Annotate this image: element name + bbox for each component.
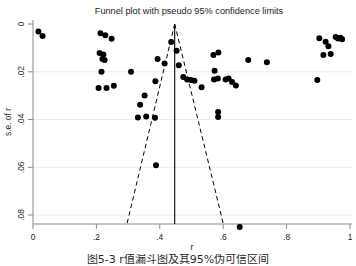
data-point: [152, 78, 158, 84]
data-point: [174, 48, 180, 54]
data-point: [168, 39, 174, 45]
funnel-plot-canvas: Funnel plot with pseudo 95% confidence l…: [0, 0, 356, 266]
x-tick-label: .4: [156, 232, 163, 242]
data-point: [215, 50, 221, 56]
data-point: [215, 109, 221, 115]
data-point: [153, 162, 159, 168]
data-point: [237, 224, 243, 230]
x-tick-label: .6: [220, 232, 227, 242]
data-point: [102, 57, 108, 63]
chart-title: Funnel plot with pseudo 95% confidence l…: [95, 6, 284, 16]
data-point: [325, 43, 331, 49]
data-point: [137, 102, 143, 108]
data-point: [215, 114, 221, 120]
data-point: [135, 115, 141, 121]
funnel-plot-figure: Funnel plot with pseudo 95% confidence l…: [0, 0, 356, 266]
data-point: [212, 68, 218, 74]
data-point: [111, 83, 117, 89]
data-point: [162, 61, 168, 67]
x-tick-label: .2: [93, 232, 100, 242]
data-point: [320, 52, 326, 58]
figure-caption: 图5-3 r值漏斗图及其95%伪可信区间: [0, 254, 356, 266]
data-point: [233, 83, 239, 89]
y-tick-label: 0: [16, 21, 26, 26]
data-point: [215, 75, 221, 81]
data-point: [328, 51, 334, 57]
x-tick-label: .8: [283, 232, 290, 242]
plot-background: [0, 0, 356, 266]
data-point: [99, 69, 105, 75]
data-point: [142, 92, 148, 98]
x-axis-label: r: [191, 242, 194, 252]
data-point: [102, 32, 108, 38]
data-point: [339, 36, 345, 42]
data-point: [40, 33, 46, 39]
data-point: [96, 85, 102, 91]
x-tick-label: 1: [348, 232, 353, 242]
data-point: [316, 35, 322, 41]
data-point: [191, 78, 197, 84]
data-point: [109, 36, 115, 42]
data-point: [152, 115, 158, 121]
y-axis-label: s.e. of r: [3, 108, 13, 136]
y-tick-label: .08: [16, 209, 26, 221]
data-point: [314, 77, 320, 83]
data-point: [264, 59, 270, 65]
data-point: [143, 113, 149, 119]
y-tick-label: .06: [16, 161, 26, 173]
y-tick-label: .04: [16, 113, 26, 125]
data-point: [199, 84, 205, 90]
x-tick-label: 0: [31, 232, 36, 242]
data-point: [155, 56, 161, 62]
data-point: [245, 57, 251, 63]
data-point: [104, 85, 110, 91]
data-point: [176, 62, 182, 68]
data-point: [128, 69, 134, 75]
y-tick-label: .02: [16, 66, 26, 78]
